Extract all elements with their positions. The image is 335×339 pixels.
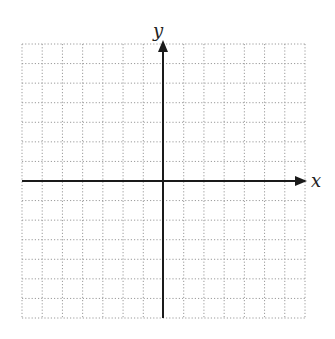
x-axis-arrowhead-icon (295, 176, 307, 186)
coordinate-plane: x y (0, 0, 335, 339)
y-axis-arrowhead-icon (158, 40, 168, 52)
y-axis-label: y (152, 20, 164, 41)
x-axis-label: x (311, 170, 321, 191)
